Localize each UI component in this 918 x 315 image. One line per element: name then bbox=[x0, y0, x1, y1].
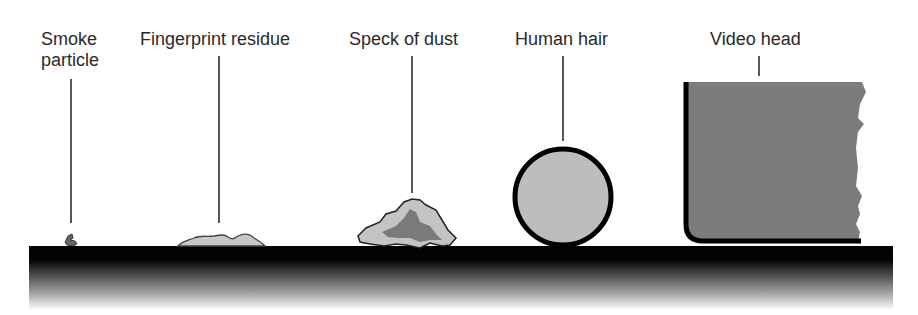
video-head-label: Video head bbox=[710, 29, 801, 50]
smoke-label-line2: particle bbox=[41, 50, 99, 71]
video-head-shape bbox=[684, 82, 866, 242]
human-hair-label: Human hair bbox=[515, 29, 608, 50]
smoke-particle-shape bbox=[65, 234, 77, 246]
dust-speck-shape bbox=[358, 199, 456, 248]
fingerprint-residue-label: Fingerprint residue bbox=[140, 29, 290, 50]
smoke-particle-label: Smoke particle bbox=[41, 29, 99, 71]
dust-speck-label: Speck of dust bbox=[349, 29, 458, 50]
smoke-label-line1: Smoke bbox=[41, 29, 99, 50]
human-hair-shape bbox=[515, 149, 611, 245]
recording-surface bbox=[29, 246, 893, 310]
fingerprint-residue-shape bbox=[178, 234, 265, 246]
